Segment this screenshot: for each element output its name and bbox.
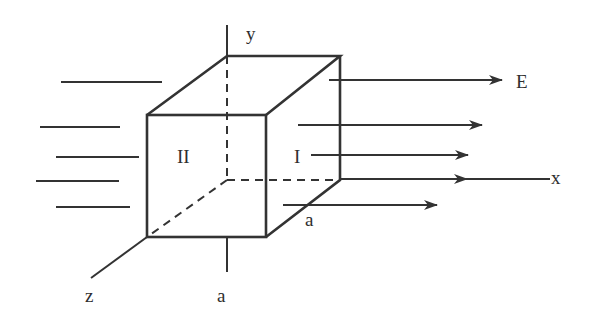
incoming-field-lines xyxy=(36,82,162,207)
field-label: E xyxy=(516,72,528,91)
outgoing-field-lines xyxy=(283,80,550,205)
z-axis-label: z xyxy=(85,286,93,305)
y-axis-label: y xyxy=(246,24,256,43)
cube-in-electric-field-diagram: y E II I x a z a xyxy=(0,0,596,333)
face-ii-label: II xyxy=(177,147,190,166)
x-axis-label: x xyxy=(551,168,561,187)
face-i-label: I xyxy=(294,147,300,166)
z-axis xyxy=(91,237,147,278)
cube-front-face xyxy=(147,115,266,237)
side-bottom-label: a xyxy=(217,286,225,305)
side-depth-label: a xyxy=(305,210,313,229)
